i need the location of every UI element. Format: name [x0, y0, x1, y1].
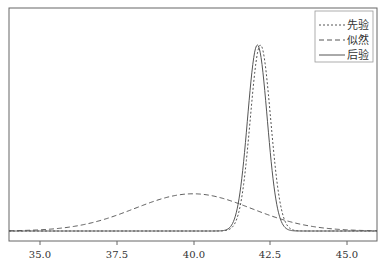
x-tick: 42.5	[259, 241, 281, 260]
x-tick-label: 37.5	[106, 249, 128, 260]
x-tick-label: 42.5	[259, 249, 281, 260]
svg-text:后验: 后验	[347, 48, 369, 62]
x-tick-label: 40.0	[183, 249, 205, 260]
x-tick: 45.0	[336, 241, 358, 260]
x-tick-label: 35.0	[29, 249, 51, 260]
svg-text:似然: 似然	[347, 33, 369, 47]
x-tick: 35.0	[29, 241, 51, 260]
x-tick-label: 45.0	[336, 249, 358, 260]
svg-text:先验: 先验	[347, 18, 369, 32]
x-tick: 37.5	[106, 241, 128, 260]
x-axis: 35.0 37.5 40.0 42.5 45.0	[29, 241, 358, 260]
density-chart: 35.0 37.5 40.0 42.5 45.0 先验 似然	[0, 0, 382, 271]
x-tick: 40.0	[183, 241, 205, 260]
legend: 先验 似然 后验	[315, 11, 373, 62]
